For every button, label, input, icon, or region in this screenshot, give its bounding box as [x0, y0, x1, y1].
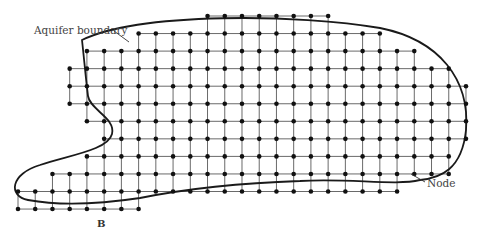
grid-node [395, 66, 400, 71]
grid-node [464, 119, 469, 124]
grid-node [205, 172, 210, 177]
grid-node [395, 101, 400, 106]
grid-node [378, 84, 383, 89]
grid-node [16, 207, 21, 212]
grid-node [50, 207, 55, 212]
grid-node [154, 101, 159, 106]
grid-node [171, 119, 176, 124]
grid-node [464, 137, 469, 142]
grid-node [378, 49, 383, 54]
grid-node [67, 172, 72, 177]
grid-node [205, 14, 210, 19]
grid-node [222, 31, 227, 36]
grid-node [360, 66, 365, 71]
grid-node [326, 189, 331, 194]
grid-node [171, 84, 176, 89]
grid-node [291, 154, 296, 159]
grid-node [154, 189, 159, 194]
grid-node [240, 31, 245, 36]
grid-node [309, 101, 314, 106]
grid-node [171, 31, 176, 36]
grid-node [257, 101, 262, 106]
grid-node [446, 101, 451, 106]
grid-node [154, 137, 159, 142]
grid-node [136, 66, 141, 71]
grid-node [119, 66, 124, 71]
grid-node [309, 154, 314, 159]
grid-node [257, 172, 262, 177]
grid-node [205, 189, 210, 194]
grid-node [309, 189, 314, 194]
grid-node [222, 84, 227, 89]
grid-node [205, 119, 210, 124]
grid-node [102, 66, 107, 71]
grid-node [309, 49, 314, 54]
grid-node [136, 31, 141, 36]
grid-node [274, 119, 279, 124]
grid-node [343, 49, 348, 54]
grid-node [291, 66, 296, 71]
grid-node [222, 101, 227, 106]
grid-node [240, 14, 245, 19]
grid-node [412, 137, 417, 142]
grid-node [326, 84, 331, 89]
grid-node [102, 119, 107, 124]
grid-node [291, 172, 296, 177]
grid-node [171, 101, 176, 106]
grid-node [395, 154, 400, 159]
grid-node [446, 66, 451, 71]
grid-node [378, 172, 383, 177]
grid-node [446, 154, 451, 159]
grid-node [205, 31, 210, 36]
grid-node [274, 137, 279, 142]
grid-node [429, 172, 434, 177]
grid-node [119, 119, 124, 124]
grid-node [343, 189, 348, 194]
grid-node [240, 49, 245, 54]
grid-node [171, 137, 176, 142]
grid-node [67, 207, 72, 212]
grid-node [119, 172, 124, 177]
grid-node [309, 172, 314, 177]
grid-node [343, 84, 348, 89]
grid-node [326, 172, 331, 177]
grid-node [412, 84, 417, 89]
point-b-label: B [97, 218, 105, 229]
grid-node [395, 119, 400, 124]
grid-node [446, 84, 451, 89]
grid-lines [18, 16, 466, 209]
grid-node [102, 154, 107, 159]
grid-node [446, 119, 451, 124]
grid-node [136, 189, 141, 194]
grid-node [378, 101, 383, 106]
grid-node [429, 154, 434, 159]
grid-node [326, 31, 331, 36]
grid-node [240, 84, 245, 89]
grid-node [412, 66, 417, 71]
grid-node [119, 207, 124, 212]
grid-node [378, 137, 383, 142]
grid-node [222, 154, 227, 159]
grid-node [154, 84, 159, 89]
grid-node [309, 66, 314, 71]
grid-node [257, 189, 262, 194]
grid-node [85, 84, 90, 89]
aquifer-grid-figure: Aquifer boundary Node B [0, 0, 484, 237]
grid-node [291, 84, 296, 89]
grid-node [205, 154, 210, 159]
grid-node [171, 66, 176, 71]
grid-node [85, 189, 90, 194]
aquifer-boundary-label: Aquifer boundary [33, 24, 127, 36]
grid-node [360, 101, 365, 106]
grid-node [154, 49, 159, 54]
grid-node [222, 14, 227, 19]
grid-node [360, 119, 365, 124]
grid-node [291, 14, 296, 19]
grid-node [188, 49, 193, 54]
grid-node [343, 66, 348, 71]
grid-node [171, 49, 176, 54]
grid-node [326, 49, 331, 54]
grid-node [412, 49, 417, 54]
grid-node [343, 154, 348, 159]
grid-node [222, 137, 227, 142]
